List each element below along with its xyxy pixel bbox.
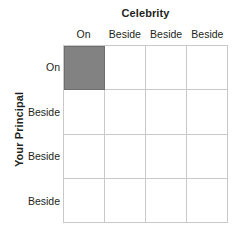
matrix-cell[interactable]	[146, 135, 187, 179]
matrix-cell[interactable]	[146, 46, 187, 90]
column-header-2: Beside	[146, 26, 187, 42]
matrix-cell[interactable]	[187, 46, 228, 90]
matrix-figure: Celebrity Your Principal On Beside Besid…	[0, 0, 244, 235]
matrix-cell[interactable]	[64, 90, 105, 134]
row-header-column: On Beside Beside Beside	[0, 45, 60, 223]
matrix-cell[interactable]	[105, 179, 146, 223]
matrix-cell[interactable]	[187, 179, 228, 223]
matrix-cell[interactable]	[105, 90, 146, 134]
column-header-1: Beside	[104, 26, 145, 42]
row-header-0: On	[0, 45, 60, 90]
column-header-0: On	[63, 26, 104, 42]
column-header-row: On Beside Beside Beside	[63, 26, 228, 42]
matrix-cell[interactable]	[187, 90, 228, 134]
row-header-3: Beside	[0, 179, 60, 224]
matrix-cell[interactable]	[64, 179, 105, 223]
matrix-cell[interactable]	[64, 135, 105, 179]
row-header-2: Beside	[0, 134, 60, 179]
matrix-grid	[63, 45, 228, 223]
row-header-1: Beside	[0, 90, 60, 135]
matrix-cell[interactable]	[105, 135, 146, 179]
column-axis-title: Celebrity	[63, 7, 228, 20]
matrix-cell[interactable]	[187, 135, 228, 179]
matrix-cell[interactable]	[146, 90, 187, 134]
matrix-cell-shaded[interactable]	[64, 46, 105, 90]
matrix-cell[interactable]	[105, 46, 146, 90]
matrix-cell[interactable]	[146, 179, 187, 223]
column-header-3: Beside	[187, 26, 228, 42]
